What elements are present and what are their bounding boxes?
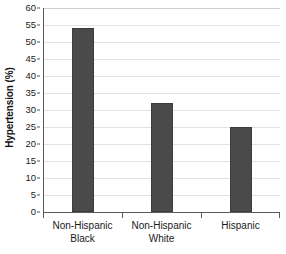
x-axis-tick-label: Non-HispanicWhite <box>131 220 191 245</box>
bar <box>230 127 252 212</box>
bar-chart: Hypertension (%) 05101520253035404550556… <box>0 0 286 254</box>
y-axis-tick-mark <box>37 127 40 128</box>
x-axis-tick-mark <box>201 213 202 218</box>
y-axis-tick-label: 50 <box>18 37 36 47</box>
y-axis-tick-label: 0 <box>18 207 36 217</box>
y-axis-tick-mark <box>37 76 40 77</box>
y-axis-tick-label: 35 <box>18 88 36 98</box>
y-axis-tick-label: 30 <box>18 105 36 115</box>
y-axis-tick-label: 15 <box>18 156 36 166</box>
y-axis-tick-mark <box>37 93 40 94</box>
y-axis-title: Hypertension (%) <box>0 0 18 215</box>
y-axis-title-text: Hypertension (%) <box>4 67 15 148</box>
y-axis-tick-label: 10 <box>18 173 36 183</box>
y-axis-tick-mark <box>37 212 40 213</box>
x-axis-tick-mark <box>43 213 44 218</box>
plot-area <box>43 8 280 212</box>
y-axis-tick-label: 25 <box>18 122 36 132</box>
y-axis-line <box>43 8 44 212</box>
y-axis-tick-mark <box>37 161 40 162</box>
x-axis-tick-marks <box>43 213 280 218</box>
y-axis-tick-label: 60 <box>18 3 36 13</box>
x-axis-tick-label-line: White <box>131 233 191 246</box>
x-axis-tick-label: Hispanic <box>221 220 259 233</box>
x-axis-tick-mark <box>122 213 123 218</box>
y-axis-tick-mark <box>37 8 40 9</box>
y-axis-tick-mark <box>37 110 40 111</box>
x-axis-tick-label: Non-HispanicBlack <box>52 220 112 245</box>
y-axis-tick-label: 45 <box>18 54 36 64</box>
x-axis-tick-label-line: Hispanic <box>221 220 259 233</box>
x-axis-tick-label-line: Non-Hispanic <box>52 220 112 233</box>
y-axis-tick-label: 5 <box>18 190 36 200</box>
y-axis-tick-mark <box>37 178 40 179</box>
y-axis-tick-mark <box>37 144 40 145</box>
x-axis-tick-label-line: Non-Hispanic <box>131 220 191 233</box>
y-axis-tick-label: 20 <box>18 139 36 149</box>
y-axis-tick-label: 55 <box>18 20 36 30</box>
bar <box>72 28 94 212</box>
bar <box>151 103 173 212</box>
y-axis-tick-mark <box>37 59 40 60</box>
gridline <box>43 8 280 9</box>
y-axis-tick-label: 40 <box>18 71 36 81</box>
y-axis-tick-mark <box>37 25 40 26</box>
y-axis-tick-mark <box>37 195 40 196</box>
x-axis-tick-label-line: Black <box>52 233 112 246</box>
x-axis-tick-labels: Non-HispanicBlackNon-HispanicWhiteHispan… <box>43 220 280 252</box>
y-axis-tick-labels: 051015202530354045505560 <box>18 8 40 212</box>
y-axis-tick-mark <box>37 42 40 43</box>
gridline <box>43 25 280 26</box>
x-axis-tick-mark <box>279 213 280 218</box>
